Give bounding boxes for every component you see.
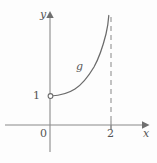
open-circle-endpoint [48, 94, 53, 99]
y-axis-label: y [40, 9, 46, 20]
curve-label-g: g [76, 61, 83, 72]
y-axis-arrowhead [46, 11, 53, 18]
y-intercept-label-1: 1 [33, 90, 40, 101]
curve-g [51, 16, 109, 97]
plot-canvas [0, 0, 157, 163]
x-axis-label: x [143, 128, 149, 139]
function-graph-figure: y x 0 1 2 g [0, 0, 157, 163]
origin-label: 0 [40, 128, 47, 139]
x-tick-label-2: 2 [107, 128, 114, 139]
